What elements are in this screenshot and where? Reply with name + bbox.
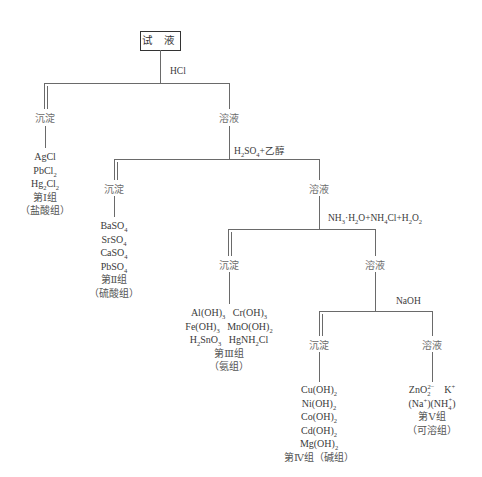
group3-line (229, 272, 230, 304)
precipitate-double-line-2b (117, 162, 118, 180)
species-nioh2: Ni(OH)2 (284, 397, 354, 411)
reagent-hcl: HCl (170, 66, 186, 76)
precipitate-label-4: 沉淀 (309, 337, 329, 352)
root-sample-box: 试 液 (140, 31, 181, 51)
solution-line-4 (432, 311, 433, 336)
group5-line (432, 352, 433, 382)
species-cooh2: Co(OH)2 (284, 410, 354, 424)
species-baso4: BaSO4 (89, 219, 139, 233)
connector-3 (319, 196, 320, 229)
species-agcl: AgCl (20, 150, 70, 164)
species-row-2: Fe(OH)3 MnO(OH)2 (185, 320, 272, 334)
solution-line-2 (319, 159, 320, 180)
branch-bar-2 (114, 159, 319, 160)
precipitate-label-3: 沉淀 (219, 257, 239, 272)
solution-label-4: 溶液 (422, 337, 442, 352)
species-cuoh2: Cu(OH)2 (284, 383, 354, 397)
group-2-list: BaSO4 SrSO4 CaSO4 PbSO4 第Ⅱ组 （硫酸组） (89, 219, 139, 300)
species-srso4: SrSO4 (89, 233, 139, 247)
branch-bar-3 (228, 229, 375, 230)
group1-line (45, 126, 46, 148)
reagent-ammonia: NH3·H2O+NH4Cl+H2O2 (328, 213, 422, 223)
group-2-alias: （硫酸组） (89, 287, 139, 301)
group-1-name: 第Ⅰ组 (20, 191, 70, 205)
species-zincate-potassium: ZnO22− K+ (407, 383, 457, 397)
solution-label-2: 溶液 (309, 181, 329, 196)
group-5-list: ZnO22− K+ (Na+)(NH4+) 第Ⅴ组 （可溶组） (407, 383, 457, 437)
precipitate-double-line-1b (47, 86, 48, 109)
group-5-name: 第Ⅴ组 (407, 410, 457, 424)
species-hg2cl2: Hg2Cl2 (20, 177, 70, 191)
precipitate-double-line-4a (319, 311, 320, 336)
group-1-list: AgCl PbCl2 Hg2Cl2 第Ⅰ组 （盐酸组） (20, 150, 70, 218)
connector-root (160, 50, 161, 83)
branch-bar-4 (319, 311, 432, 312)
species-row-1: Al(OH)3 Cr(OH)3 (185, 306, 272, 320)
precipitate-double-line-3b (231, 232, 232, 256)
precipitate-double-line-4b (322, 314, 323, 336)
precipitate-double-line-2a (114, 159, 115, 180)
solution-line-1 (229, 83, 230, 109)
solution-label-3: 溶液 (365, 257, 385, 272)
group-3-list: Al(OH)3 Cr(OH)3 Fe(OH)3 MnO(OH)2 H2SnO3 … (185, 306, 272, 374)
precipitate-double-line-3a (228, 229, 229, 256)
species-pbso4: PbSO4 (89, 260, 139, 274)
species-mgoh2: Mg(OH)2 (284, 437, 354, 451)
group-5-alias: （可溶组） (407, 424, 457, 438)
solution-label-1: 溶液 (219, 110, 239, 125)
group-4-list: Cu(OH)2 Ni(OH)2 Co(OH)2 Cd(OH)2 Mg(OH)2 … (284, 383, 354, 464)
reagent-naoh: NaOH (396, 296, 421, 306)
branch-bar-1 (44, 83, 229, 84)
precipitate-label-2: 沉淀 (104, 181, 124, 196)
group2-line (114, 196, 115, 217)
group-3-alias: （氨组） (185, 360, 272, 374)
group-3-name: 第Ⅲ组 (185, 347, 272, 361)
species-cdoh2: Cd(OH)2 (284, 424, 354, 438)
solution-line-3 (375, 229, 376, 256)
species-pbcl2: PbCl2 (20, 164, 70, 178)
precipitate-double-line-1a (44, 83, 45, 109)
connector-2 (229, 126, 230, 159)
reagent-h2so4-ethanol: H2SO4+乙醇 (234, 143, 285, 157)
group4-line (319, 352, 320, 382)
group-4-name: 第Ⅳ组（碱组） (284, 451, 354, 465)
root-label: 试 液 (142, 35, 180, 46)
group-1-alias: （盐酸组） (20, 204, 70, 218)
group-2-name: 第Ⅱ组 (89, 273, 139, 287)
species-row-3: H2SnO3 HgNH2Cl (185, 333, 272, 347)
precipitate-label-1: 沉淀 (35, 110, 55, 125)
connector-4 (375, 272, 376, 311)
species-na-nh4: (Na+)(NH4+) (407, 397, 457, 411)
species-caso4: CaSO4 (89, 246, 139, 260)
